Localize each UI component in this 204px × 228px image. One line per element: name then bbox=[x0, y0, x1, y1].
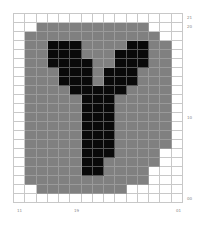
grid-cell bbox=[104, 14, 115, 23]
label-right-mid: 10 bbox=[187, 116, 192, 120]
grid-cell bbox=[160, 122, 171, 131]
grid-cell bbox=[25, 149, 36, 158]
grid-cell bbox=[14, 41, 25, 50]
grid-cell bbox=[160, 140, 171, 149]
grid-cell bbox=[160, 77, 171, 86]
grid-cell bbox=[48, 149, 59, 158]
grid-cell bbox=[48, 59, 59, 68]
grid-cell bbox=[127, 95, 138, 104]
grid-cell bbox=[138, 140, 149, 149]
grid-cell bbox=[14, 59, 25, 68]
grid-cell bbox=[104, 185, 115, 194]
label-bottom-right: 01 bbox=[176, 209, 181, 213]
grid-cell bbox=[93, 194, 104, 203]
grid-cell bbox=[14, 86, 25, 95]
grid-cell bbox=[149, 140, 160, 149]
grid-cell bbox=[149, 23, 160, 32]
grid-cell bbox=[93, 95, 104, 104]
grid-cell bbox=[37, 158, 48, 167]
grid-cell bbox=[25, 104, 36, 113]
grid-cell bbox=[82, 158, 93, 167]
grid-cell bbox=[127, 194, 138, 203]
grid-cell bbox=[82, 86, 93, 95]
grid-cell bbox=[70, 104, 81, 113]
grid-cell bbox=[104, 149, 115, 158]
grid-cell bbox=[82, 176, 93, 185]
grid-cell bbox=[127, 131, 138, 140]
label-right-top-1: 21 bbox=[187, 16, 192, 20]
grid-cell bbox=[104, 77, 115, 86]
grid-cell bbox=[48, 140, 59, 149]
grid-cell bbox=[82, 14, 93, 23]
grid-cell bbox=[59, 185, 70, 194]
grid-cell bbox=[82, 104, 93, 113]
grid-cell bbox=[70, 77, 81, 86]
grid-cell bbox=[127, 113, 138, 122]
grid-cell bbox=[172, 176, 183, 185]
grid-cell bbox=[160, 113, 171, 122]
grid-cell bbox=[149, 167, 160, 176]
grid-cell bbox=[172, 158, 183, 167]
label-right-top-2: 20 bbox=[187, 25, 192, 29]
grid-cell bbox=[160, 59, 171, 68]
grid-cell bbox=[59, 68, 70, 77]
grid-cell bbox=[115, 59, 126, 68]
grid-cell bbox=[37, 140, 48, 149]
grid-cell bbox=[104, 194, 115, 203]
grid-cell bbox=[138, 95, 149, 104]
grid-cell bbox=[14, 14, 25, 23]
grid-cell bbox=[149, 59, 160, 68]
grid-cell bbox=[48, 95, 59, 104]
grid-cell bbox=[70, 194, 81, 203]
grid-cell bbox=[25, 86, 36, 95]
grid-cell bbox=[115, 50, 126, 59]
grid-cell bbox=[25, 95, 36, 104]
grid-cell bbox=[14, 140, 25, 149]
grid-cell bbox=[48, 32, 59, 41]
grid-cell bbox=[115, 77, 126, 86]
grid-cell bbox=[149, 149, 160, 158]
grid-cell bbox=[172, 140, 183, 149]
grid-cell bbox=[25, 50, 36, 59]
grid-cell bbox=[25, 140, 36, 149]
grid-cell bbox=[160, 23, 171, 32]
grid-cell bbox=[93, 68, 104, 77]
grid-cell bbox=[82, 149, 93, 158]
grid-cell bbox=[25, 68, 36, 77]
grid-cell bbox=[149, 95, 160, 104]
grid-cell bbox=[93, 104, 104, 113]
grid-cell bbox=[127, 185, 138, 194]
grid-cell bbox=[14, 149, 25, 158]
grid-cell bbox=[160, 158, 171, 167]
grid-cell bbox=[48, 14, 59, 23]
grid-cell bbox=[14, 167, 25, 176]
grid-cell bbox=[25, 122, 36, 131]
grid-cell bbox=[115, 14, 126, 23]
grid-cell bbox=[138, 122, 149, 131]
grid-cell bbox=[70, 167, 81, 176]
grid-cell bbox=[138, 23, 149, 32]
grid-cell bbox=[14, 77, 25, 86]
grid-cell bbox=[82, 23, 93, 32]
grid-cell bbox=[82, 32, 93, 41]
grid-cell bbox=[48, 41, 59, 50]
grid-cell bbox=[14, 176, 25, 185]
grid-cell bbox=[149, 122, 160, 131]
grid-cell bbox=[82, 68, 93, 77]
grid-cell bbox=[104, 95, 115, 104]
grid-cell bbox=[59, 122, 70, 131]
grid-cell bbox=[138, 41, 149, 50]
grid-cell bbox=[138, 68, 149, 77]
grid-cell bbox=[93, 113, 104, 122]
grid-cell bbox=[37, 176, 48, 185]
grid-cell bbox=[59, 41, 70, 50]
grid-cell bbox=[48, 50, 59, 59]
grid-cell bbox=[37, 41, 48, 50]
label-bottom-left: 11 bbox=[17, 209, 22, 213]
grid-cell bbox=[70, 14, 81, 23]
grid-cell bbox=[127, 140, 138, 149]
grid-cell bbox=[149, 32, 160, 41]
grid-cell bbox=[93, 32, 104, 41]
grid-cell bbox=[160, 104, 171, 113]
grid-cell bbox=[138, 113, 149, 122]
